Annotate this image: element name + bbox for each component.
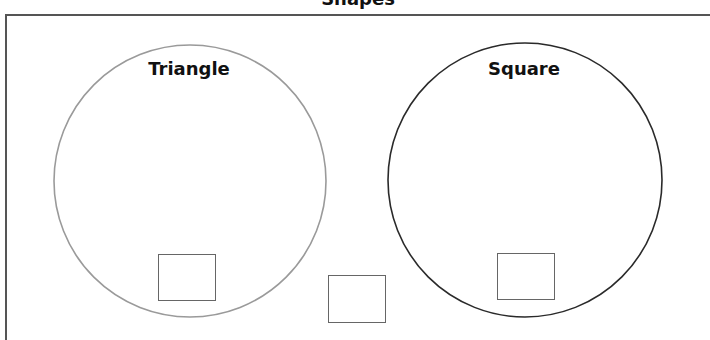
- triangle-label: Triangle: [109, 58, 269, 79]
- triangle-answer-box[interactable]: [158, 254, 216, 301]
- square-answer-box[interactable]: [497, 253, 555, 300]
- square-label: Square: [444, 58, 604, 79]
- overlap-answer-box[interactable]: [328, 275, 386, 323]
